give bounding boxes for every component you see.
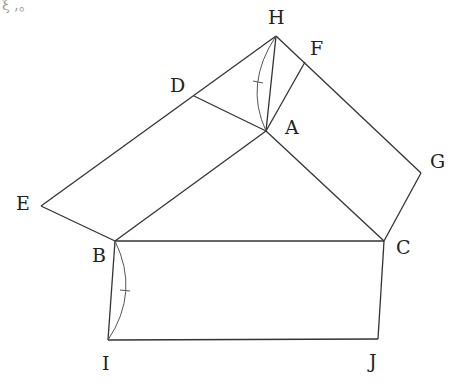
segment-DA: [194, 96, 266, 131]
label-A: A: [284, 116, 299, 138]
label-C: C: [396, 236, 411, 258]
segment-BA: [115, 131, 266, 241]
segment-IJ: [108, 339, 378, 340]
tick-mark-BI: [120, 290, 130, 291]
segment-BI: [108, 241, 115, 340]
label-I: I: [102, 352, 110, 374]
arc-HA: [257, 36, 276, 131]
segment-AC: [266, 131, 384, 241]
geometry-figure: ξ ,。 H F D A G E B C I J: [0, 0, 464, 390]
segment-EB: [41, 206, 115, 241]
label-H: H: [268, 6, 285, 28]
label-E: E: [16, 192, 30, 214]
label-B: B: [92, 244, 106, 266]
equal-length-arcs: [108, 36, 276, 340]
point-labels: H F D A G E B C I J: [16, 6, 445, 374]
segments: [41, 36, 421, 340]
label-G: G: [430, 150, 445, 172]
label-J: J: [367, 350, 377, 372]
segment-GC: [384, 173, 421, 241]
segment-HE: [41, 36, 276, 206]
caption-fragment: ξ ,。: [2, 0, 33, 13]
segment-JC: [378, 241, 384, 339]
label-F: F: [310, 37, 323, 59]
segment-HG: [276, 36, 421, 173]
label-D: D: [170, 74, 185, 96]
